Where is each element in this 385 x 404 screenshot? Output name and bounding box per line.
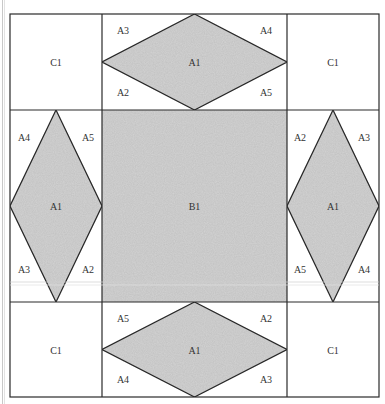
label-a1-right: A1 (327, 201, 339, 212)
label-bottom-corner-tl: A5 (117, 313, 129, 324)
label-right-corner-tr: A3 (358, 132, 370, 143)
label-left-corner-bl: A3 (18, 264, 30, 275)
label-a1-bottom: A1 (188, 345, 200, 356)
label-right-corner-tl: A2 (294, 132, 306, 143)
label-top-corner-tl: A3 (117, 25, 129, 36)
label-left-corner-tl: A4 (18, 132, 30, 143)
label-left-corner-br: A2 (82, 264, 94, 275)
label-bottom-corner-tr: A2 (260, 313, 272, 324)
label-c1-top-left: C1 (50, 57, 62, 68)
label-left-corner-tr: A5 (82, 132, 94, 143)
label-c1-bottom-right: C1 (327, 345, 339, 356)
label-c1-bottom-left: C1 (50, 345, 62, 356)
label-bottom-corner-br: A3 (260, 374, 272, 385)
label-c1-top-right: C1 (327, 57, 339, 68)
quilt-block-diagram: C1 C1 C1 C1 B1 A1 A3 A4 A2 A5 A1 A4 A5 A… (0, 0, 385, 404)
label-a1-top: A1 (188, 57, 200, 68)
label-b1-center: B1 (189, 201, 201, 212)
label-right-corner-bl: A5 (294, 264, 306, 275)
label-bottom-corner-bl: A4 (117, 374, 129, 385)
label-top-corner-bl: A2 (117, 87, 129, 98)
label-top-corner-br: A5 (260, 87, 272, 98)
label-right-corner-br: A4 (358, 264, 370, 275)
label-a1-left: A1 (50, 201, 62, 212)
label-top-corner-tr: A4 (260, 25, 272, 36)
